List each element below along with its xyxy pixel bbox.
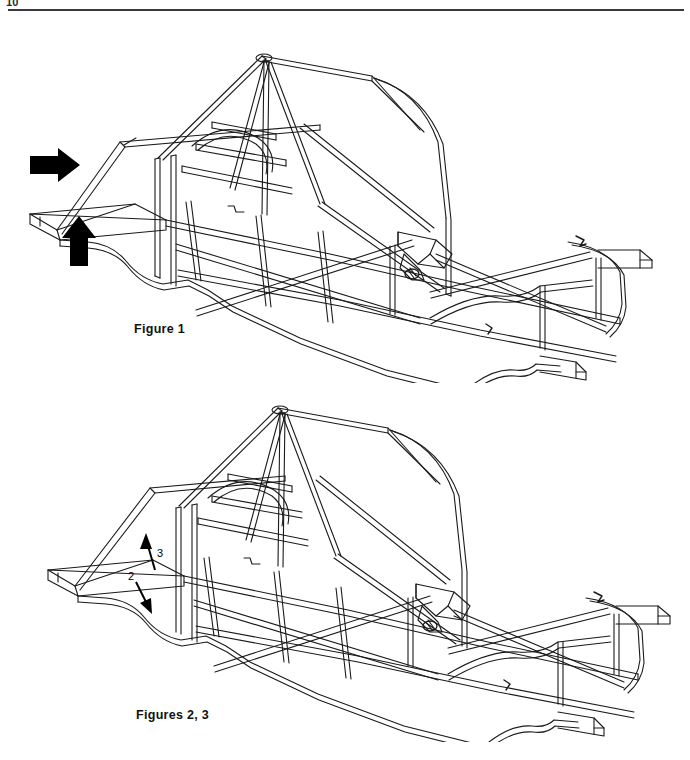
figure-1-block: Figure 1 [0,18,690,383]
floor-rail-upper [166,220,620,324]
floor-cross-1 [204,557,219,637]
rear-x-brace-a [448,608,610,654]
joint-detail-right [576,236,586,246]
figure-1-callout-arrows [30,148,96,266]
floor-cross-3 [336,587,351,679]
figure-1-illustration [0,18,690,383]
rear-upright-1 [390,245,395,315]
right-vertical-b [596,258,601,320]
callout-3-label: 3 [157,547,163,559]
figure-2-callout-arrows: 3 2 [128,533,163,614]
document-page: 10 [0,0,690,760]
rear-x-brace-b [454,610,624,688]
mid-lower-rail [430,280,593,324]
callout-2-arrow [136,582,152,614]
left-pillar-front [155,158,160,278]
left-pillar-front [176,507,181,634]
cage-top-left-rail [158,56,266,160]
callout-3-arrow [140,533,155,570]
rear-box-rail-upper [598,250,652,268]
mid-lower-rail [448,636,611,680]
rear-box-rail-lower [558,712,604,736]
suspension-bracket [398,232,452,280]
floor-rail-lower [178,270,616,362]
cage-top-right-rail [262,56,424,132]
floor-x-brace-b [214,596,432,672]
floor-rail-lower [196,626,634,718]
right-vertical-a [540,286,545,350]
joint-detail-right [594,592,604,602]
rear-lower-rail [484,720,579,742]
floor-cross-3 [318,231,333,323]
right-diagonal-upper [316,476,450,584]
cage-top-right-rail [278,408,440,484]
figure-2-caption: Figures 2, 3 [136,708,209,722]
right-main-hoop [390,430,467,648]
rear-x-brace-b [436,254,606,332]
callout-2-label: 2 [128,570,134,582]
floor-rail-upper [184,576,638,680]
rear-box-rail-upper [616,606,670,624]
roof-diagonal-c [282,414,341,556]
left-pillar-mid [171,155,176,286]
floor-cross-1 [186,201,201,281]
front-crossmember [30,204,166,240]
header-rule [8,9,684,11]
floor-notch-detail [244,558,260,564]
roof-rung-3 [182,166,292,194]
rear-box-rail-lower [540,356,586,380]
right-vertical-b [614,614,619,676]
floor-x-brace-b [196,240,414,316]
roof-diagonal-c [266,62,325,204]
figure-1-caption: Figure 1 [134,322,185,336]
rear-x-brace-a [430,252,592,298]
figure-2-illustration: 3 2 [0,392,690,742]
right-vertical-a [558,642,563,706]
roof-rung-3 [198,518,308,546]
floor-notch-detail [228,206,244,212]
rear-upright-1 [408,597,413,667]
right-diagonal-upper [300,124,434,232]
front-crossmember [48,560,184,596]
page-number: 10 [6,0,19,8]
figure-2-block: 3 2 Figures 2, 3 [0,392,690,742]
left-pillar-mid [192,504,197,642]
arrow-right-icon [30,148,80,182]
right-diagonal-lower [318,202,444,292]
